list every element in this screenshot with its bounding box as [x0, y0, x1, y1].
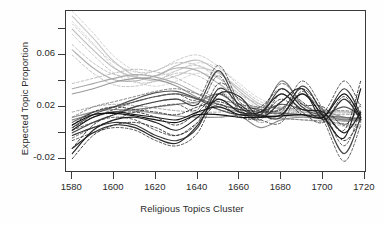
- x-tick-label: 1580: [49, 181, 93, 192]
- x-tick-label: 1720: [342, 181, 384, 192]
- x-tick-label: 1700: [300, 181, 344, 192]
- y-tick-mark: [58, 80, 65, 81]
- x-tick-mark: [280, 172, 281, 179]
- y-tick-mark: [58, 28, 65, 29]
- x-tick-mark: [238, 172, 239, 179]
- curve-layer: [66, 11, 366, 172]
- y-tick-label: 0.06: [0, 47, 65, 58]
- y-tick-mark: [58, 132, 65, 133]
- series-line: [72, 11, 360, 112]
- x-tick-label: 1600: [91, 181, 135, 192]
- x-tick-mark: [364, 172, 365, 179]
- y-tick-label: -0.02: [0, 151, 65, 162]
- x-tick-label: 1680: [258, 181, 302, 192]
- x-tick-mark: [113, 172, 114, 179]
- x-axis-title: Religious Topics Cluster: [0, 203, 384, 214]
- x-tick-mark: [197, 172, 198, 179]
- x-tick-label: 1660: [216, 181, 260, 192]
- plot-area: [65, 10, 366, 172]
- x-tick-mark: [155, 172, 156, 179]
- x-tick-mark: [322, 172, 323, 179]
- x-tick-label: 1620: [133, 181, 177, 192]
- x-tick-label: 1640: [175, 181, 219, 192]
- x-tick-mark: [71, 172, 72, 179]
- chart-figure: Expected Topic Proportion -0.020.020.06 …: [0, 0, 384, 225]
- y-tick-label: 0.02: [0, 99, 65, 110]
